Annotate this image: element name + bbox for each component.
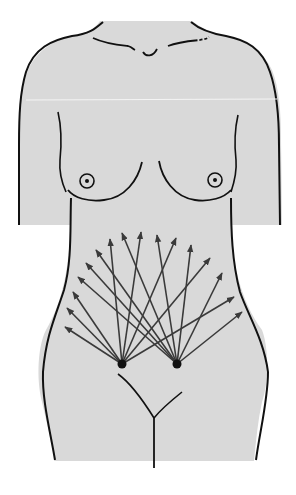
upper-torso-silhouette [19, 21, 282, 461]
right-nipple [213, 178, 217, 182]
left-origin-point [118, 360, 127, 369]
left-nipple [85, 179, 89, 183]
torso-diagram [0, 0, 296, 495]
right-origin-point [173, 360, 182, 369]
